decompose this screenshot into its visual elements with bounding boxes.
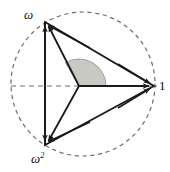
vector-to-root-omega-squared bbox=[49, 86, 80, 141]
vector-to-root-omega bbox=[49, 26, 80, 86]
label-root-omega-squared-exponent: 2 bbox=[40, 151, 44, 160]
arrow-into-root-one-lower bbox=[118, 89, 150, 109]
label-root-omega: ω bbox=[24, 8, 33, 21]
label-root-omega-squared-base: ω bbox=[31, 151, 40, 166]
arrow-into-root-one-upper bbox=[118, 64, 150, 84]
figure-canvas bbox=[0, 0, 170, 172]
cube-roots-of-unity-figure: ω ω2 1 bbox=[0, 0, 170, 172]
label-root-omega-squared: ω2 bbox=[31, 152, 44, 165]
arrow-into-root-omega-squared bbox=[49, 122, 91, 142]
label-root-one: 1 bbox=[159, 79, 166, 92]
